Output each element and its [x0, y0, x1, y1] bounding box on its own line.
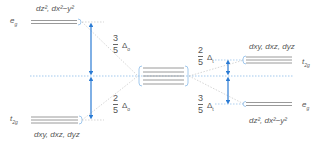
oct-eg-levels: [31, 19, 81, 25]
splitting-diagram-graphics: [0, 0, 321, 149]
oct-t2g-orbitals: dxy, dxz, dyz: [34, 131, 80, 139]
tet-eg-levels: [243, 102, 292, 107]
oct-upper-delta: Δo: [122, 42, 130, 52]
free-ion-levels: [139, 66, 188, 86]
tet-eg-label: eg: [302, 101, 309, 111]
tet-t2g-levels: [243, 56, 292, 64]
tet-upper-fraction: 25: [198, 46, 203, 67]
oct-lower-fraction: 25: [113, 94, 118, 115]
tet-eg-orbitals: dz², dx²−y²: [249, 117, 287, 125]
tet-lower-delta: Δt: [207, 102, 214, 112]
oct-eg-orbitals: dz², dx²−y²: [36, 5, 74, 13]
oct-t2g-label: t2g: [10, 115, 18, 125]
oct-t2g-levels: [31, 116, 82, 124]
tet-upper-delta: Δt: [207, 54, 214, 64]
tet-t2g-orbitals: dxy, dxz, dyz: [249, 43, 295, 51]
tet-t2g-label: t2g: [302, 58, 310, 68]
oct-upper-fraction: 35: [113, 34, 118, 55]
tet-lower-fraction: 35: [198, 94, 203, 115]
oct-lower-delta: Δo: [122, 102, 130, 112]
oct-eg-label: eg: [10, 17, 17, 27]
